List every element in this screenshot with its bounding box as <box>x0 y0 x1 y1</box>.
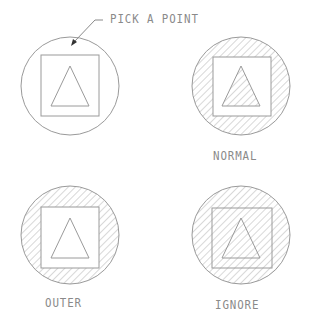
leader-arrow <box>71 20 103 46</box>
hatch-style-diagram <box>0 0 309 325</box>
outer-circle <box>21 37 119 135</box>
panel-pick-point <box>21 37 119 135</box>
callout-label: PICK A POINT <box>110 13 199 25</box>
panel-outer <box>21 186 119 284</box>
panel-ignore <box>192 186 290 284</box>
label-outer: OUTER <box>45 297 82 309</box>
inner-triangle <box>51 66 89 106</box>
label-normal: NORMAL <box>213 150 257 162</box>
middle-square <box>41 55 99 116</box>
panel-normal <box>192 37 290 135</box>
label-ignore: IGNORE <box>215 299 259 311</box>
